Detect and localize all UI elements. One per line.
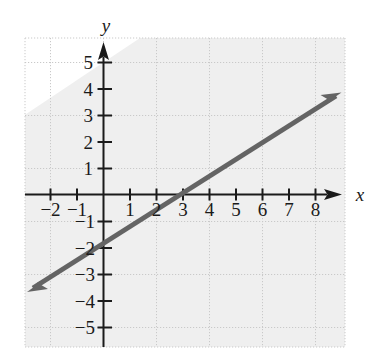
y-tick-label: 1 (84, 158, 94, 179)
coordinate-graph-figure: −2 −1 1 2 3 4 5 6 7 8 5 4 3 2 1 −1 −2 −3… (0, 0, 385, 364)
x-axis-name: x (355, 184, 365, 205)
x-tick-label: 6 (258, 199, 268, 220)
x-tick-label: 4 (205, 199, 215, 220)
y-tick-label: −5 (75, 317, 95, 338)
x-tick-label: 3 (178, 199, 188, 220)
y-tick-label: −3 (75, 264, 95, 285)
y-tick-label: −1 (75, 211, 95, 232)
y-tick-label: 3 (84, 105, 94, 126)
y-tick-label: 2 (84, 132, 94, 153)
y-tick-label: 5 (84, 52, 94, 73)
y-tick-label: 4 (84, 79, 94, 100)
graph-canvas: −2 −1 1 2 3 4 5 6 7 8 5 4 3 2 1 −1 −2 −3… (0, 0, 385, 364)
x-tick-label: 1 (125, 199, 135, 220)
x-tick-label: −2 (40, 199, 60, 220)
y-tick-label: −2 (75, 238, 95, 259)
x-tick-label: 2 (152, 199, 162, 220)
x-tick-label: 8 (311, 199, 321, 220)
y-tick-label: −4 (75, 291, 96, 312)
x-tick-label: 7 (284, 199, 294, 220)
x-tick-label: 5 (231, 199, 241, 220)
y-axis-name: y (100, 15, 111, 36)
